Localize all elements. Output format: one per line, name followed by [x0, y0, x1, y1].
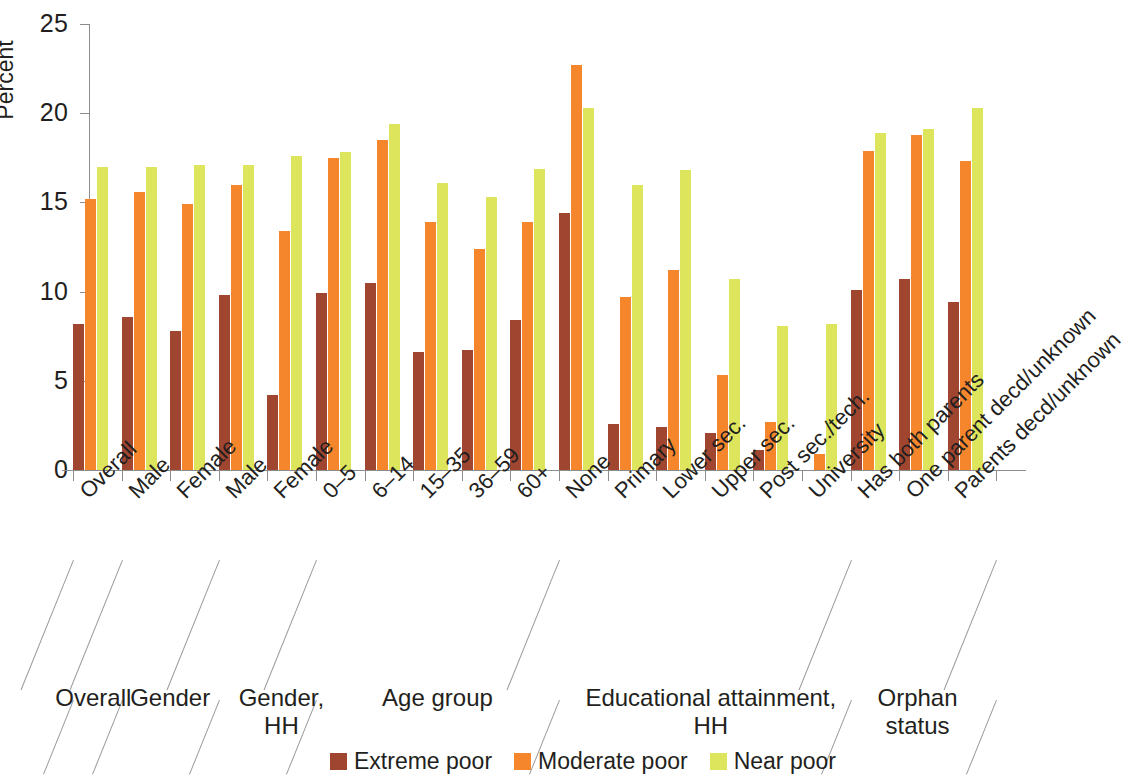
bar-extreme	[365, 283, 376, 470]
bar-moderate	[571, 65, 582, 470]
bar-near	[291, 156, 302, 470]
legend-swatch-extreme-icon	[330, 753, 347, 770]
bar-moderate	[377, 140, 388, 470]
group-leader-line	[166, 560, 219, 690]
bar-moderate	[85, 199, 96, 470]
bar-extreme	[170, 331, 181, 470]
bar-near	[389, 124, 400, 470]
bar-moderate	[279, 231, 290, 470]
bar-group	[267, 24, 303, 470]
bar-group	[705, 24, 741, 470]
bar-group	[219, 24, 255, 470]
bar-extreme	[267, 395, 278, 470]
bar-moderate	[425, 222, 436, 470]
y-tick-label: 10	[0, 279, 68, 304]
legend-swatch-near-icon	[710, 753, 727, 770]
bar-group	[753, 24, 789, 470]
bar-moderate	[182, 204, 193, 470]
bar-near	[340, 152, 351, 470]
bar-group	[656, 24, 692, 470]
bar-group	[413, 24, 449, 470]
bar-moderate	[231, 185, 242, 470]
x-tick	[365, 471, 366, 481]
bar-moderate	[522, 222, 533, 470]
bar-extreme	[559, 213, 570, 470]
bar-group	[170, 24, 206, 470]
bar-near	[97, 167, 108, 470]
bar-near	[632, 185, 643, 470]
group-leader-line	[21, 560, 74, 690]
group-leader-line	[507, 560, 560, 690]
bar-near	[583, 108, 594, 470]
x-tick	[559, 471, 560, 481]
legend-item: Near poor	[710, 748, 836, 775]
bar-near	[875, 133, 886, 470]
y-tick-label: 15	[0, 189, 68, 214]
legend-item: Moderate poor	[514, 748, 688, 775]
x-tick	[73, 471, 74, 481]
group-label: Educational attainment, HH	[565, 684, 857, 740]
legend-label: Near poor	[734, 748, 836, 775]
legend-swatch-moderate-icon	[514, 753, 531, 770]
chart-legend: Extreme poorModerate poorNear poor	[330, 748, 850, 775]
bar-near	[146, 167, 157, 470]
bar-moderate	[620, 297, 631, 470]
group-leader-line	[264, 560, 317, 690]
legend-label: Extreme poor	[354, 748, 492, 775]
bar-group	[365, 24, 401, 470]
bar-near	[680, 170, 691, 470]
group-label: Orphan status	[838, 684, 998, 740]
bar-group	[559, 24, 595, 470]
bar-near	[243, 165, 254, 470]
bar-extreme	[73, 324, 84, 470]
bar-near	[437, 183, 448, 470]
bar-near	[826, 324, 837, 470]
bar-moderate	[328, 158, 339, 470]
bar-group	[73, 24, 109, 470]
bar-group	[802, 24, 838, 470]
bar-group	[462, 24, 498, 470]
bar-group	[316, 24, 352, 470]
y-tick-label: 0	[0, 457, 68, 482]
bar-near	[486, 197, 497, 470]
y-tick-label: 25	[0, 11, 68, 36]
group-leader-line	[798, 560, 851, 690]
bar-moderate	[474, 249, 485, 470]
legend-label: Moderate poor	[538, 748, 688, 775]
plot-area	[90, 24, 1026, 470]
bar-near	[534, 169, 545, 470]
y-tick-label: 5	[0, 368, 68, 393]
bar-group	[510, 24, 546, 470]
bar-near	[194, 165, 205, 470]
bar-extreme	[413, 352, 424, 470]
group-leader-line	[69, 560, 122, 690]
bar-group	[608, 24, 644, 470]
bar-moderate	[134, 192, 145, 470]
group-leader-line	[944, 560, 997, 690]
legend-item: Extreme poor	[330, 748, 492, 775]
group-label: Age group	[316, 684, 559, 712]
bar-group	[899, 24, 935, 470]
bar-group	[122, 24, 158, 470]
y-tick-label: 20	[0, 100, 68, 125]
